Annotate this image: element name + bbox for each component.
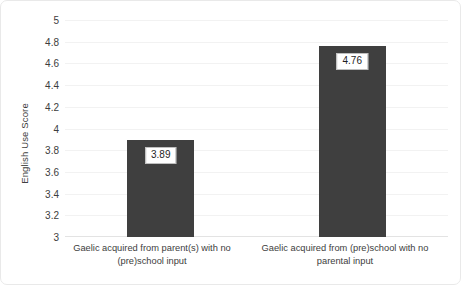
y-axis-tick-label: 3.6 <box>19 166 59 177</box>
gridline <box>65 194 448 195</box>
x-axis-category-label-0: Gaelic acquired from parent(s) with no (… <box>59 242 245 267</box>
bar-chart: English Use Score 33.23.43.63.844.24.44.… <box>0 0 461 285</box>
y-axis-tick-label: 4.8 <box>19 36 59 47</box>
gridline <box>65 85 448 86</box>
y-axis-tick-label: 5 <box>19 15 59 26</box>
gridline <box>65 42 448 43</box>
y-axis-tick-label: 4.6 <box>19 58 59 69</box>
y-axis-tick-label: 3 <box>19 232 59 243</box>
plot-area: 3.894.76 <box>65 20 448 237</box>
x-axis-line <box>65 236 448 237</box>
bar-value-label-0: 3.89 <box>145 147 176 164</box>
gridline <box>65 129 448 130</box>
gridline <box>65 107 448 108</box>
gridline <box>65 63 448 64</box>
gridline <box>65 20 448 21</box>
y-axis-tick-labels: 33.23.43.63.844.24.44.64.85 <box>15 20 59 237</box>
x-axis-category-label-1: Gaelic acquired from (pre)school with no… <box>249 242 441 267</box>
bar-1[interactable] <box>319 46 386 237</box>
y-axis-tick-label: 3.2 <box>19 210 59 221</box>
y-axis-tick-label: 4 <box>19 123 59 134</box>
y-axis-tick-label: 3.8 <box>19 145 59 156</box>
gridline <box>65 150 448 151</box>
y-axis-tick-label: 4.4 <box>19 80 59 91</box>
gridline <box>65 215 448 216</box>
y-axis-tick-label: 4.2 <box>19 101 59 112</box>
gridline <box>65 172 448 173</box>
y-axis-tick-label: 3.4 <box>19 188 59 199</box>
bar-value-label-1: 4.76 <box>337 53 368 70</box>
